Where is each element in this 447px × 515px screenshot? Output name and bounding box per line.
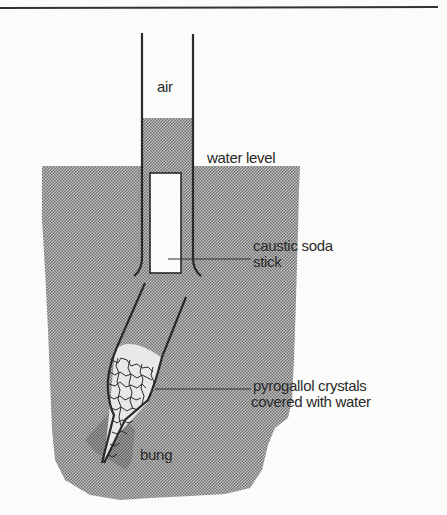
label-air: air [157, 78, 173, 95]
label-bung: bung [140, 446, 172, 463]
label-caustic-soda: caustic soda [253, 237, 334, 254]
tube-water [142, 118, 192, 168]
diagram-figure: air water level caustic soda stick pyrog… [0, 0, 447, 515]
top-rule [0, 7, 438, 8]
label-water-level: water level [206, 149, 275, 166]
label-pyrogallol-crystals: pyrogallol crystals [253, 377, 367, 394]
label-caustic-soda-stick: stick [253, 253, 282, 270]
caustic-soda-stick [150, 173, 181, 273]
label-covered-with-water: covered with water [251, 393, 371, 410]
